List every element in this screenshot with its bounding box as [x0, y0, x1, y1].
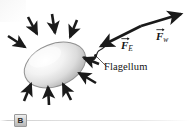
- force-water-label: F w: [156, 31, 168, 44]
- vector-symbol-fe: F: [121, 40, 128, 51]
- inward-arrow: [28, 17, 37, 34]
- diagram-canvas: [0, 0, 190, 131]
- inward-arrow: [70, 20, 77, 37]
- force-electric-subscript: E: [128, 44, 133, 53]
- vector-arrow-overbar-icon: [121, 36, 130, 41]
- inward-arrow: [8, 36, 25, 47]
- inward-arrow: [79, 73, 96, 83]
- flagellum-label: Flagellum: [104, 62, 147, 73]
- inward-arrow: [48, 87, 49, 105]
- force-electric-label: F E: [121, 40, 133, 53]
- force-water-subscript: w: [163, 35, 168, 44]
- flagellum-leader-dot: [94, 54, 97, 57]
- inward-arrow: [52, 14, 55, 33]
- vector-arrow-overbar-icon: [156, 27, 165, 32]
- inward-arrow: [63, 84, 71, 100]
- inward-arrow: [84, 58, 99, 64]
- panel-label-badge: B: [14, 114, 27, 127]
- figure-panel-b: Flagellum F E F w B: [0, 0, 190, 131]
- inward-arrow: [24, 84, 31, 101]
- force-water-vector: [141, 14, 181, 26]
- panel-divider: [0, 120, 190, 121]
- vector-symbol-fw: F: [156, 31, 163, 42]
